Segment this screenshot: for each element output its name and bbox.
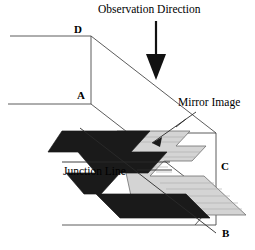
- diagram-canvas: [0, 0, 255, 250]
- label-vertex-a: A: [77, 90, 85, 101]
- label-mirror-image: Mirror Image: [178, 97, 240, 109]
- label-vertex-b: B: [222, 228, 229, 239]
- label-vertex-d: D: [74, 24, 82, 35]
- observation-arrow-group: [146, 21, 166, 80]
- label-vertex-c: C: [221, 161, 229, 172]
- mirror-leader-tick: [176, 119, 186, 127]
- observation-arrow-head: [146, 54, 166, 80]
- label-observation-direction: Observation Direction: [98, 4, 201, 16]
- figure-container: Observation Direction Mirror Image Junct…: [0, 0, 255, 250]
- label-junction-line: Junction Line: [63, 166, 126, 178]
